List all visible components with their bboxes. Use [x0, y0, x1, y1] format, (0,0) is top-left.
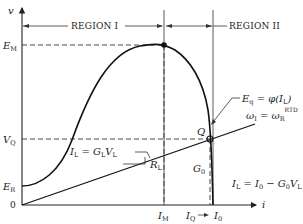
eq-leader: [213, 98, 240, 122]
eq-phi-label: Eq = φ(IL): [241, 93, 291, 106]
y-axis-label: v: [8, 5, 14, 16]
region-1-label: REGION I: [71, 21, 119, 31]
load-line: [22, 124, 255, 205]
x-axis-label: i: [262, 199, 265, 210]
rtd-curve: [22, 44, 213, 205]
rtd-characteristic-diagram: v i 0 REGION I REGION II EM VQ ER IM IQ …: [0, 0, 303, 224]
rl-label: RL: [149, 159, 163, 172]
load-line-leader: [135, 152, 150, 158]
i0-label: I0: [213, 210, 222, 223]
source-line-equation: IL = I0 − G0VL: [231, 178, 302, 191]
origin-label: 0: [10, 200, 16, 210]
g0-label: G0: [193, 163, 205, 176]
region-2-label: REGION II: [229, 21, 280, 31]
omega-label: ωI = ωRRTD: [246, 106, 298, 123]
dashed-guides: [22, 45, 210, 205]
q-label: Q: [197, 126, 205, 137]
peak-point: [161, 42, 167, 48]
load-line-equation: IL = GLVL: [69, 146, 118, 159]
im-label: IM: [157, 210, 169, 223]
iq-label: IQ: [185, 210, 195, 223]
er-label: ER: [2, 181, 16, 194]
region-markers: [23, 10, 227, 205]
em-label: EM: [2, 40, 17, 53]
vq-label: VQ: [3, 134, 16, 147]
